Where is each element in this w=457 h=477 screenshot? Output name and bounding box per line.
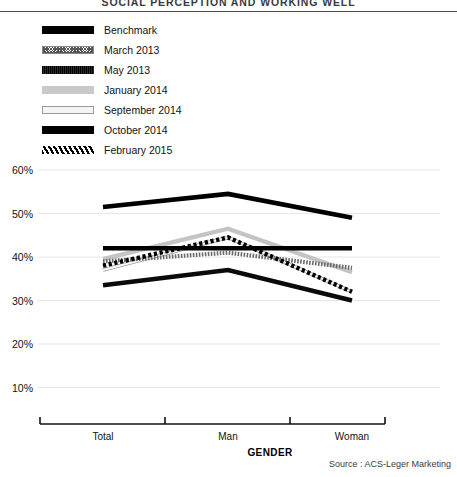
series-line-october-2014 — [103, 194, 352, 218]
y-tick-label: 60% — [12, 164, 33, 176]
gridlines — [38, 170, 440, 388]
series-line-september-2014 — [103, 237, 352, 291]
series-line-february-2015 — [103, 237, 352, 291]
y-tick-label: 50% — [12, 208, 33, 220]
x-axis-title: GENDER — [247, 447, 293, 458]
chart-plot-area: 10%20%30%40%50%60% TotalManWoman GENDER — [0, 0, 457, 477]
x-axis-labels: TotalManWoman — [92, 431, 369, 442]
chart-svg: 10%20%30%40%50%60% TotalManWoman GENDER — [0, 0, 457, 477]
y-axis-labels: 10%20%30%40%50%60% — [12, 164, 33, 394]
y-tick-label: 40% — [12, 251, 33, 263]
x-tick-label-man: Man — [218, 431, 237, 442]
y-tick-label: 30% — [12, 295, 33, 307]
source-note: Source : ACS-Leger Marketing — [329, 459, 451, 469]
y-tick-label: 20% — [12, 338, 33, 350]
x-tick-label-woman: Woman — [335, 431, 369, 442]
series-line-september-2014-fill — [103, 237, 352, 291]
y-tick-label: 10% — [12, 382, 33, 394]
x-tick-label-total: Total — [92, 431, 113, 442]
data-series-group — [103, 194, 352, 301]
x-axis — [40, 417, 385, 424]
